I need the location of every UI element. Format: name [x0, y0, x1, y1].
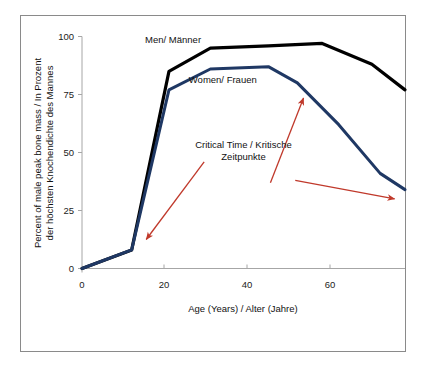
series-label-men: Men/ Männer [145, 34, 201, 45]
series-line-women [82, 67, 405, 269]
x-tick-label-20: 20 [159, 279, 170, 290]
y-tick-label-75: 75 [63, 89, 74, 100]
y-tick-label-100: 100 [58, 31, 74, 42]
y-tick-label-25: 25 [63, 205, 74, 216]
x-tick-label-60: 60 [325, 279, 336, 290]
critical-time-annotation-line1: Critical Time / Kritische [195, 139, 292, 150]
y-tick-label-0: 0 [69, 263, 74, 274]
x-tick-label-0: 0 [79, 279, 84, 290]
y-tick-label-50: 50 [63, 147, 74, 158]
x-axis-title: Age (Years) / Alter (Jahre) [188, 303, 297, 314]
annotation-arrows-group [146, 98, 394, 240]
y-axis-title-line2: der höchsten Knochendichte des Mannes [44, 65, 55, 240]
series-label-women: Women/ Frauen [189, 74, 257, 85]
x-tick-label-40: 40 [242, 279, 253, 290]
y-axis-title-line1: Percent of male peak bone mass / In Proz… [32, 58, 43, 248]
bone-mass-line-chart: 100 75 50 25 0 0 20 40 60 Age (Years) / … [0, 0, 429, 371]
critical-time-annotation-line2: Zeitpunkte [221, 151, 265, 162]
y-axis-ticks: 100 75 50 25 0 [58, 31, 82, 274]
arrow-to-puberty-icon [146, 162, 204, 240]
arrow-to-old-age-icon [295, 180, 394, 199]
figure-container: 100 75 50 25 0 0 20 40 60 Age (Years) / … [0, 0, 429, 371]
